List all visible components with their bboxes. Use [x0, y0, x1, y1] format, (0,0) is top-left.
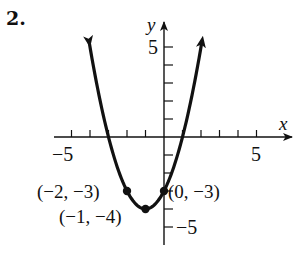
point-label-neg2-neg3: (−2, −3): [37, 181, 100, 203]
graph-canvas: x y −5 5 5 −5 (−2, −3) (−1, −4) (0, −3): [0, 0, 296, 260]
y-axis-label: y: [145, 14, 156, 35]
point-label-neg1-neg4: (−1, −4): [59, 206, 122, 228]
parabola-figure: 2. x y −5 5 5 −5 (−2: [0, 0, 296, 260]
point-neg2-neg3: [123, 187, 131, 195]
point-0-neg3: [160, 187, 168, 195]
x-axis-label: x: [278, 113, 288, 134]
y-tick-label-5: 5: [148, 36, 158, 58]
point-label-0-neg3: (0, −3): [168, 181, 220, 203]
point-vertex-neg1-neg4: [141, 205, 149, 213]
x-tick-label-neg5: −5: [52, 143, 73, 165]
y-tick-label-neg5: −5: [176, 216, 197, 238]
x-tick-label-5: 5: [251, 143, 261, 165]
problem-number: 2.: [6, 7, 26, 29]
